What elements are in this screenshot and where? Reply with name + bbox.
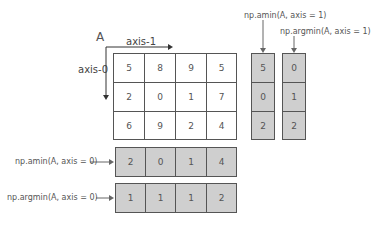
argmin-axis0-label: np.argmin(A, axis = 0) bbox=[7, 193, 98, 202]
result-cell: 1 bbox=[115, 183, 146, 213]
argmin-axis1-label: np.argmin(A, axis = 1) bbox=[280, 27, 371, 36]
matrix-cell: 2 bbox=[175, 111, 207, 140]
matrix-cell: 6 bbox=[113, 111, 145, 140]
matrix-cell: 4 bbox=[206, 111, 237, 140]
matrix-cell: 1 bbox=[175, 82, 207, 112]
matrix-cell: 5 bbox=[206, 53, 237, 83]
result-cell: 0 bbox=[145, 147, 176, 177]
matrix-cell: 9 bbox=[175, 53, 207, 83]
result-cell: 5 bbox=[251, 53, 275, 83]
matrix-cell: 5 bbox=[113, 53, 145, 83]
result-cell: 1 bbox=[175, 183, 207, 213]
matrix-cell: 7 bbox=[206, 82, 237, 112]
result-cell: 1 bbox=[175, 147, 207, 177]
matrix-cell: 8 bbox=[144, 53, 176, 83]
result-cell: 1 bbox=[145, 183, 176, 213]
result-cell: 2 bbox=[282, 111, 306, 140]
result-cell: 4 bbox=[206, 147, 237, 177]
matrix-cell: 2 bbox=[113, 82, 145, 112]
matrix-cell: 9 bbox=[144, 111, 176, 140]
amin-axis1-label: np.amin(A, axis = 1) bbox=[244, 11, 326, 20]
result-cell: 2 bbox=[115, 147, 146, 177]
result-cell: 0 bbox=[282, 53, 306, 83]
amin-axis0-label: np.amin(A, axis = 0) bbox=[15, 157, 97, 166]
result-cell: 2 bbox=[251, 111, 275, 140]
result-cell: 2 bbox=[206, 183, 237, 213]
result-cell: 0 bbox=[251, 82, 275, 112]
result-cell: 1 bbox=[282, 82, 306, 112]
matrix-cell: 0 bbox=[144, 82, 176, 112]
